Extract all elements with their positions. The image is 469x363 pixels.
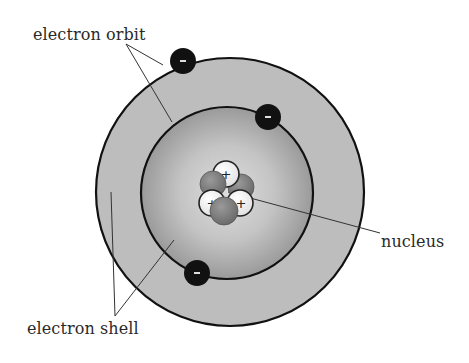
electron-minus-icon [265, 116, 271, 118]
label-electron-shell: electron shell [27, 319, 139, 338]
electron-outer [170, 48, 196, 74]
label-nucleus: nucleus [381, 232, 444, 251]
neutron [210, 197, 238, 225]
electron-inner-bottom [184, 260, 210, 286]
electron-minus-icon [180, 60, 186, 62]
orbit-leader-line-outer [126, 44, 163, 65]
inner-electron-shell [141, 107, 313, 279]
atom-diagram: + + + [0, 0, 469, 363]
electron-minus-icon [194, 272, 200, 274]
label-electron-orbit: electron orbit [33, 25, 146, 44]
electron-inner-top [255, 104, 281, 130]
